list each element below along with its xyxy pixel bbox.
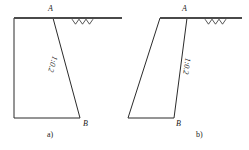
hatch-mark xyxy=(205,19,212,24)
panel-a-ground-hatching xyxy=(72,19,93,24)
panel-b-slope-ratio-label: 1:0.2 xyxy=(181,57,191,75)
hatch-mark xyxy=(212,19,219,24)
panel-b-ground-hatching xyxy=(205,19,226,24)
panel-a xyxy=(14,18,122,118)
panel-a-caption: a) xyxy=(47,131,53,139)
panel-b-caption: b) xyxy=(196,131,203,139)
panel-b-vertex-label-a: A xyxy=(182,5,187,13)
panel-b-vertex-label-b: B xyxy=(176,120,181,128)
hatch-mark xyxy=(86,19,93,24)
panel-a-vertex-label-a: A xyxy=(48,5,53,13)
hatch-mark xyxy=(72,19,79,24)
slope-diagram-figure xyxy=(0,0,249,150)
panel-b-wall-outline xyxy=(128,18,187,118)
panel-a-vertex-label-b: B xyxy=(83,120,88,128)
hatch-mark xyxy=(219,19,226,24)
hatch-mark xyxy=(79,19,86,24)
